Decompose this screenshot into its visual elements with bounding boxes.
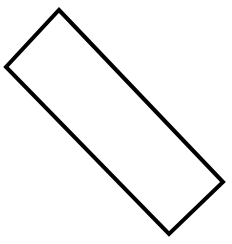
canvas xyxy=(0,0,232,244)
rotated-rectangle xyxy=(6,10,223,234)
